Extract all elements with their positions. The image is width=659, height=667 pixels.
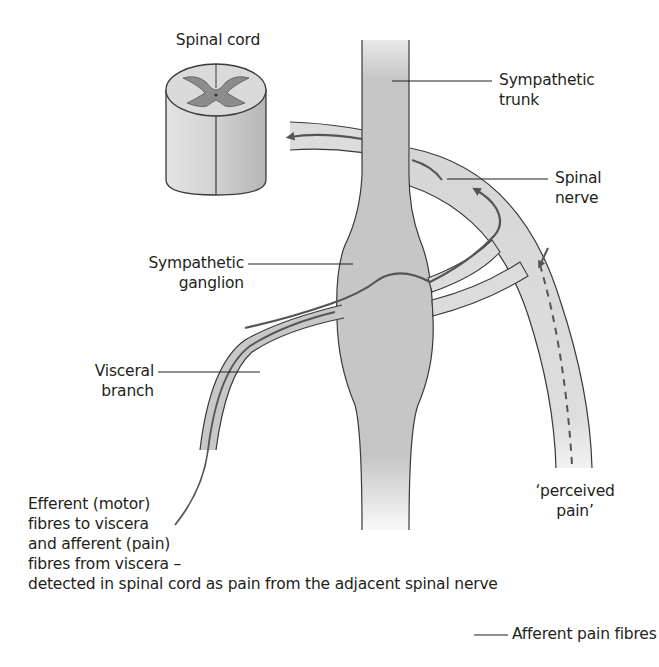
label-line: detected in spinal cord as pain from the…: [28, 574, 498, 594]
label-spinal-nerve: Spinal nerve: [555, 168, 601, 208]
label-perceived-pain: ‘perceived pain’: [520, 481, 630, 521]
label-efferent-note: Efferent (motor) fibres to viscera and a…: [28, 494, 498, 594]
visceral-branch: [175, 305, 344, 525]
label-line: and afferent (pain): [28, 534, 498, 554]
label-line: Sympathetic: [499, 70, 595, 90]
label-line: fibres from viscera –: [28, 554, 498, 574]
label-line: branch: [60, 381, 154, 401]
label-spinal-cord: Spinal cord: [168, 30, 268, 50]
label-line: Efferent (motor): [28, 494, 498, 514]
label-line: Spinal: [555, 168, 601, 188]
label-line: fibres to viscera: [28, 514, 498, 534]
sympathetic-trunk: [337, 40, 434, 530]
spinal-cord-illustration: [166, 64, 266, 195]
legend-afferent-pain-fibres: Afferent pain fibres: [512, 624, 657, 644]
label-sympathetic-ganglion: Sympathetic ganglion: [120, 253, 244, 293]
label-line: Visceral: [60, 361, 154, 381]
label-visceral-branch: Visceral branch: [60, 361, 154, 401]
label-line: trunk: [499, 90, 595, 110]
label-sympathetic-trunk: Sympathetic trunk: [499, 70, 595, 110]
label-line: ganglion: [120, 273, 244, 293]
label-line: Sympathetic: [120, 253, 244, 273]
label-line: pain’: [520, 501, 630, 521]
label-line: ‘perceived: [520, 481, 630, 501]
label-line: nerve: [555, 188, 601, 208]
